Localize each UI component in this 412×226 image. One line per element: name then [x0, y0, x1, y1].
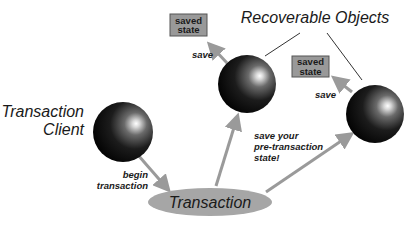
- client-label-line2: Client: [43, 121, 84, 138]
- save-label-1: save: [192, 49, 214, 60]
- object1-sphere: [218, 55, 276, 113]
- save-state-label-line3: state!: [254, 152, 279, 163]
- arrow-to-object1: [216, 121, 236, 186]
- diagram-title: Recoverable Objects: [241, 9, 390, 26]
- client-sphere: [93, 102, 153, 162]
- begin-label-line1: begin: [123, 169, 149, 180]
- saved-state-1-line2: state: [177, 24, 199, 35]
- client-label-line1: Transaction: [2, 103, 85, 120]
- connector-line-object2: [327, 33, 362, 80]
- save-label-2: save: [315, 89, 337, 100]
- saved-state-box-1: saved state: [170, 14, 207, 36]
- saved-state-2-line2: state: [299, 66, 321, 77]
- arrow-save-object1: [213, 48, 227, 63]
- object2-sphere: [346, 85, 404, 143]
- arrow-save-object2: [338, 81, 352, 92]
- diagram-canvas: Transaction saved state saved state save…: [0, 0, 412, 226]
- begin-label-line2: transaction: [97, 180, 148, 191]
- connector-line-object1: [265, 33, 300, 56]
- save-state-label-line1: save your: [254, 130, 300, 141]
- save-state-label-line2: pre-transaction: [253, 141, 323, 152]
- saved-state-box-2: saved state: [292, 56, 329, 77]
- transaction-label: Transaction: [169, 194, 252, 211]
